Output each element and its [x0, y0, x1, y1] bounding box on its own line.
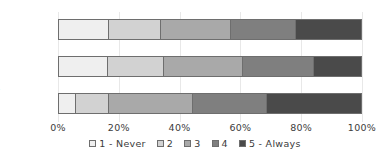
bar-segment	[192, 93, 266, 114]
legend-swatch-icon	[239, 140, 246, 147]
legend-label: 5 - Always	[249, 138, 301, 149]
stacked-bar-chart: WP CMS Other 0%20%40%60%80%100% 1 - Neve…	[0, 0, 390, 158]
legend-swatch-icon	[89, 140, 96, 147]
x-axis: 0%20%40%60%80%100%	[58, 122, 362, 138]
x-axis-tick-label: 60%	[229, 122, 251, 133]
x-axis-tick-label: 100%	[348, 122, 376, 133]
bar-segment	[108, 93, 192, 114]
gridline-5	[362, 12, 363, 122]
bar-segment	[75, 93, 108, 114]
bar-segment	[107, 56, 163, 77]
legend-label: 4	[222, 138, 228, 149]
legend: 1 - Never2345 - Always	[0, 138, 390, 149]
legend-item-1[interactable]: 1 - Never	[89, 138, 146, 149]
legend-swatch-icon	[157, 140, 164, 147]
legend-item-5[interactable]: 5 - Always	[239, 138, 301, 149]
bar-segment	[58, 93, 75, 114]
bar-segment	[58, 56, 107, 77]
legend-item-4[interactable]: 4	[212, 138, 228, 149]
table-row	[58, 56, 362, 77]
bar-segment	[58, 19, 108, 40]
bar-segment	[108, 19, 160, 40]
legend-swatch-icon	[212, 140, 219, 147]
x-axis-tick-label: 80%	[290, 122, 312, 133]
legend-label: 3	[194, 138, 200, 149]
bar-segment	[313, 56, 362, 77]
legend-swatch-icon	[184, 140, 191, 147]
bar-segment	[230, 19, 295, 40]
legend-item-3[interactable]: 3	[184, 138, 200, 149]
x-axis-tick-label: 0%	[50, 122, 66, 133]
bar-segment	[242, 56, 313, 77]
bar-segment	[160, 19, 230, 40]
legend-label: 2	[167, 138, 173, 149]
table-row	[58, 19, 362, 40]
x-axis-tick-label: 20%	[108, 122, 130, 133]
bar-segment	[295, 19, 362, 40]
legend-label: 1 - Never	[99, 138, 146, 149]
plot-area	[58, 12, 362, 122]
x-axis-tick-label: 40%	[169, 122, 191, 133]
bar-segment	[266, 93, 362, 114]
bar-segment	[163, 56, 242, 77]
table-row	[58, 93, 362, 114]
legend-item-2[interactable]: 2	[157, 138, 173, 149]
